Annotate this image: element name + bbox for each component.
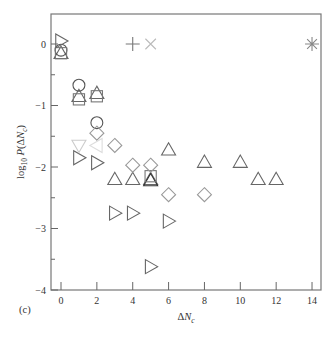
y-axis-ticks: 0−1−2−3−4 <box>35 39 58 296</box>
asterisk-marker <box>305 37 319 51</box>
plot-frame <box>51 14 321 290</box>
triangle-up-marker <box>126 172 140 184</box>
y-tick-label: −2 <box>35 162 46 173</box>
triangle-right-marker <box>127 206 139 220</box>
panel-label: (c) <box>19 304 31 316</box>
triangle-up-marker <box>233 155 247 167</box>
triangle-right-marker <box>92 156 104 170</box>
diamond-marker <box>197 188 211 202</box>
x-axis-label: ΔNc <box>177 311 195 325</box>
y-tick-label: 0 <box>41 39 46 50</box>
y-axis-label: log10 P(ΔNc) <box>15 124 29 179</box>
x-tick-label: 10 <box>235 295 245 306</box>
triangle-up-marker <box>197 155 211 167</box>
triangle-right-marker <box>163 214 175 228</box>
triangle-up-marker <box>108 172 122 184</box>
triangle-up-marker <box>90 86 104 98</box>
x-axis-ticks: 02468101214 <box>59 282 318 306</box>
x-tick-label: 6 <box>166 295 171 306</box>
x-tick-label: 12 <box>271 295 281 306</box>
x-tick-label: 4 <box>130 295 135 306</box>
triangle-left-marker <box>90 138 102 152</box>
cross-marker <box>145 39 156 50</box>
triangle-up-marker <box>162 143 176 155</box>
x-tick-label: 0 <box>59 295 64 306</box>
triangle-right-marker <box>110 206 122 220</box>
triangle-up-marker <box>144 174 158 186</box>
triangle-right-marker <box>145 260 157 274</box>
triangle-up-marker <box>251 172 265 184</box>
x-tick-label: 2 <box>94 295 99 306</box>
diamond-marker <box>162 188 176 202</box>
diamond-marker <box>144 158 158 172</box>
triangle-up-marker <box>269 172 283 184</box>
diamond-marker <box>126 158 140 172</box>
triangle-right-marker <box>74 151 86 165</box>
y-tick-label: −3 <box>35 223 46 234</box>
x-tick-label: 8 <box>202 295 207 306</box>
x-tick-label: 14 <box>307 295 317 306</box>
y-tick-label: −4 <box>35 285 46 296</box>
scatter-chart: 02468101214 0−1−2−3−4 ΔNc log10 P(ΔNc) (… <box>0 0 336 337</box>
data-markers <box>54 34 319 274</box>
y-tick-label: −1 <box>35 100 46 111</box>
diamond-marker <box>108 138 122 152</box>
plus-marker <box>126 37 140 51</box>
